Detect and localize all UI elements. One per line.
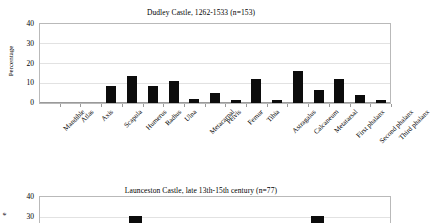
y-tick-40-bottom: 40 [12,193,34,201]
y-tick-0-top: 0 [12,99,34,107]
y-tick-20-top: 20 [12,60,34,68]
y-tick-10-top: 10 [12,79,34,87]
bar-ulna [169,81,179,103]
x-tick-12 [308,104,309,107]
x-tick-3 [122,104,123,107]
gridline-20-top [40,63,390,64]
bar-humerus [127,76,137,103]
y-axis-label-bottom: e [0,206,8,222]
bar-bottom-1 [129,216,142,223]
bar-femur [231,100,241,103]
chart-dudley-castle: Dudley Castle, 1262-1533 (n=153) Percent… [0,0,402,170]
x-tick-8 [225,104,226,107]
y-tick-30-top: 30 [12,40,34,48]
x-tick-11 [287,104,288,107]
chart-title-top: Dudley Castle, 1262-1533 (n=153) [0,8,402,17]
x-tick-5 [163,104,164,107]
x-tick-2 [101,104,102,107]
x-label-tibia: Tibia [266,108,282,124]
bar-radius [148,86,158,103]
bar-calcaneum [293,71,303,103]
y-tick-30-bottom: 30 [12,213,34,221]
x-tick-0 [60,104,61,107]
x-tick-7 [205,104,206,107]
bar-scapula [106,86,116,103]
bar-pelvis [210,93,220,103]
bar-astragalus [272,100,282,103]
gridline-30-top [40,43,390,44]
bar-first-phalanx [334,79,344,103]
x-tick-1 [80,104,81,107]
x-label-ulna: Ulna [183,108,198,123]
x-tick-13 [329,104,330,107]
x-tick-14 [350,104,351,107]
chart-title-bottom: Launceston Castle, late 13th-15th centur… [0,186,402,195]
bar-metatarsal [314,90,324,103]
chart-launceston-castle: Launceston Castle, late 13th-15th centur… [0,170,402,223]
bar-metacarpal [189,99,199,103]
x-label-axis: Axis [100,108,115,123]
x-tick-6 [184,104,185,107]
gridline-30-bottom [40,217,390,218]
x-tick-4 [143,104,144,107]
x-tick-16 [391,104,392,107]
bar-bottom-2 [311,216,324,223]
x-label-femur: Femur [246,108,265,127]
bar-third-phalanx [376,100,386,103]
plot-area-bottom [39,196,391,223]
x-tick-10 [267,104,268,107]
bar-second-phalanx [355,95,365,103]
x-label-scapula: Scapula [123,108,144,129]
bar-tibia [251,79,261,103]
y-tick-40-top: 40 [12,20,34,28]
x-tick-9 [246,104,247,107]
x-tick-15 [370,104,371,107]
